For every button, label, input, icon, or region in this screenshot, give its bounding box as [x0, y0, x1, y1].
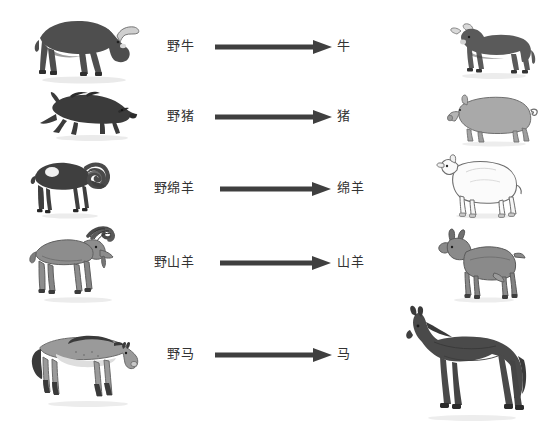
wild-label-horse: 野马	[167, 346, 194, 362]
mouflon-silhouette-icon	[28, 154, 114, 220]
sheep-silhouette-icon	[436, 152, 528, 222]
diagram-row-goat: 野山羊 山羊	[0, 224, 544, 304]
domestic-label-sheep: 绵羊	[337, 180, 364, 196]
pig-arrow-group: 野猪 猪	[160, 104, 370, 130]
right-arrow-icon-pig	[215, 109, 333, 125]
wild-goat-silhouette-icon	[26, 226, 130, 304]
cow-silhouette-icon	[448, 14, 540, 80]
right-arrow-icon-goat	[220, 255, 332, 271]
przewalski-horse-silhouette-icon	[26, 322, 150, 408]
wild-boar-silhouette-icon	[30, 90, 142, 144]
diagram-row-horse: 野马 马	[0, 304, 544, 428]
wild-label-goat: 野山羊	[154, 254, 195, 270]
domestic-label-cattle: 牛	[337, 38, 351, 54]
diagram-row-cattle: 野牛 牛	[0, 0, 544, 86]
diagram-row-pig: 野猪 猪	[0, 86, 544, 152]
right-arrow-icon-sheep	[220, 181, 332, 197]
goat-silhouette-icon	[436, 226, 528, 304]
wild-label-sheep: 野绵羊	[154, 180, 195, 196]
domestication-diagram: 野牛 牛	[0, 0, 544, 428]
sheep-arrow-group: 野绵羊 绵羊	[150, 176, 380, 202]
right-arrow-icon-horse	[215, 347, 333, 363]
pig-silhouette-icon	[446, 92, 540, 148]
domestic-label-goat: 山羊	[337, 254, 364, 270]
right-arrow-icon-cattle	[215, 39, 333, 55]
diagram-row-sheep: 野绵羊 绵羊	[0, 152, 544, 224]
horse-arrow-group: 野马 马	[160, 342, 370, 368]
aurochs-silhouette-icon	[24, 8, 144, 84]
domestic-label-pig: 猪	[337, 108, 351, 124]
wild-label-cattle: 野牛	[167, 38, 194, 54]
domestic-label-horse: 马	[337, 346, 351, 362]
goat-arrow-group: 野山羊 山羊	[150, 250, 380, 276]
horse-silhouette-icon	[398, 304, 540, 424]
wild-label-pig: 野猪	[167, 108, 194, 124]
cattle-arrow-group: 野牛 牛	[160, 34, 370, 60]
